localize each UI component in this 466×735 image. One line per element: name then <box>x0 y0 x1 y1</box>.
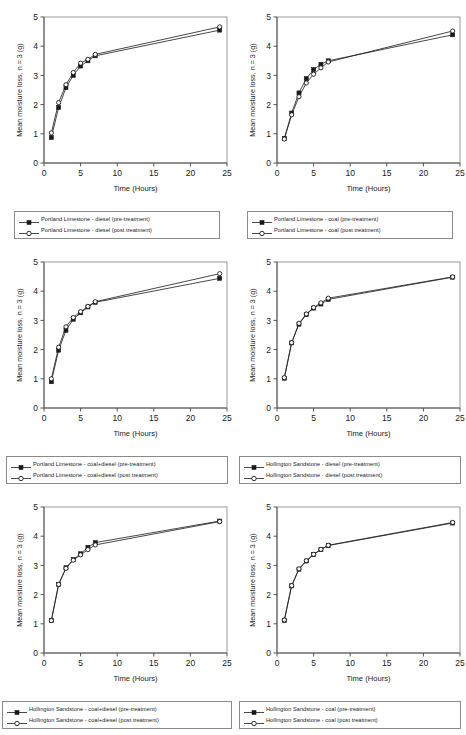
legend-item: Portland Limestone - coal+diesel (post t… <box>10 470 224 481</box>
x-tick-label: 15 <box>149 413 159 423</box>
y-tick-label: 4 <box>33 41 38 51</box>
x-tick-label: 15 <box>149 658 159 668</box>
y-tick-label: 5 <box>266 502 271 512</box>
legend-5: Hollington Sandstone - coal (pre-treatme… <box>239 701 461 729</box>
y-tick-label: 0 <box>33 403 38 413</box>
y-tick-label: 3 <box>266 316 271 326</box>
x-tick-label: 10 <box>345 413 355 423</box>
chart-panel-0: 0123450510152025Time (Hours)Mean moistur… <box>0 0 233 245</box>
marker-filled-square <box>304 77 308 81</box>
x-tick-label: 20 <box>186 658 196 668</box>
marker-open-circle <box>86 304 90 308</box>
marker-filled-square <box>312 68 316 72</box>
x-tick-label: 25 <box>222 658 232 668</box>
chart-panel-3: 0123450510152025Time (Hours)Mean moistur… <box>233 245 466 490</box>
marker-open-circle <box>451 520 455 524</box>
legend-label: Hollington Sandstone - coal (post treatm… <box>265 715 378 726</box>
marker-open-circle <box>319 547 323 551</box>
y-axis-title: Mean moisture loss, n = 3 (g) <box>248 288 257 381</box>
y-tick-label: 2 <box>33 345 38 355</box>
legend-item: Hollington Sandstone - coal (post treatm… <box>243 715 457 726</box>
series-line-0 <box>51 521 219 621</box>
marker-open-circle <box>49 377 53 381</box>
series-line-0 <box>284 35 452 139</box>
x-tick-label: 0 <box>42 658 47 668</box>
marker-open-circle <box>64 83 68 87</box>
x-tick-label: 15 <box>382 413 392 423</box>
y-axis-title: Mean moisture loss, n = 3 (g) <box>248 43 257 136</box>
legend-2: Portland Limestone - coal+diesel (pre-tr… <box>6 456 228 484</box>
x-tick-label: 5 <box>311 658 316 668</box>
marker-open-circle <box>304 81 308 85</box>
x-tick-label: 25 <box>455 658 465 668</box>
y-tick-label: 3 <box>33 561 38 571</box>
y-tick-label: 4 <box>266 41 271 51</box>
x-tick-label: 0 <box>42 168 47 178</box>
marker-open-circle <box>93 300 97 304</box>
x-tick-label: 5 <box>78 168 83 178</box>
x-axis-title: Time (Hours) <box>346 674 390 683</box>
x-tick-label: 15 <box>382 658 392 668</box>
y-tick-label: 0 <box>266 648 271 658</box>
marker-open-circle <box>79 310 83 314</box>
plot-area-4: 0123450510152025Time (Hours)Mean moistur… <box>0 490 233 735</box>
legend-key-filled-square-icon <box>243 704 265 715</box>
y-tick-label: 3 <box>33 316 38 326</box>
legend-label: Portland Limestone - coal (pre-treatment… <box>273 214 378 225</box>
y-tick-label: 2 <box>33 100 38 110</box>
y-tick-label: 1 <box>33 619 38 629</box>
legend-item: Portland Limestone - coal (post treatmen… <box>251 225 449 236</box>
x-axis-title: Time (Hours) <box>346 429 390 438</box>
x-tick-label: 25 <box>455 168 465 178</box>
marker-open-circle <box>304 312 308 316</box>
chart-panel-4: 0123450510152025Time (Hours)Mean moistur… <box>0 490 233 735</box>
marker-open-circle <box>49 131 53 135</box>
y-tick-label: 2 <box>266 590 271 600</box>
series-line-1 <box>51 522 219 621</box>
y-tick-label: 2 <box>33 590 38 600</box>
marker-open-circle <box>312 305 316 309</box>
x-tick-label: 25 <box>222 168 232 178</box>
marker-open-circle <box>218 25 222 29</box>
marker-open-circle <box>319 66 323 70</box>
x-tick-label: 15 <box>149 168 159 178</box>
x-tick-label: 25 <box>455 413 465 423</box>
legend-3: Hollington Sandstone - diesel (pre-treat… <box>239 456 461 484</box>
marker-open-circle <box>326 543 330 547</box>
legend-item: Hollington Sandstone - coal+diesel (post… <box>6 715 228 726</box>
legend-label: Portland Limestone - coal (post treatmen… <box>273 225 381 236</box>
legend-0: Portland Limestone - diesel (pre-treatme… <box>14 211 220 239</box>
x-tick-label: 0 <box>275 168 280 178</box>
legend-key-open-circle-icon <box>18 225 40 236</box>
legend-key-open-circle-icon <box>10 470 32 481</box>
y-tick-label: 3 <box>33 71 38 81</box>
legend-key-filled-square-icon <box>6 704 28 715</box>
marker-open-circle <box>297 95 301 99</box>
x-tick-label: 10 <box>112 413 122 423</box>
y-tick-label: 1 <box>266 129 271 139</box>
y-tick-label: 1 <box>33 129 38 139</box>
legend-1: Portland Limestone - coal (pre-treatment… <box>247 211 453 239</box>
y-tick-label: 5 <box>33 502 38 512</box>
legend-label: Hollington Sandstone - diesel (pre-treat… <box>265 459 380 470</box>
x-tick-label: 10 <box>345 168 355 178</box>
chart-svg-0: 0123450510152025Time (Hours)Mean moistur… <box>0 0 233 245</box>
y-axis-title: Mean moisture loss, n = 3 (g) <box>15 43 24 136</box>
legend-item: Portland Limestone - diesel (post treatm… <box>18 225 216 236</box>
y-tick-label: 0 <box>33 158 38 168</box>
legend-key-filled-square-icon <box>10 459 32 470</box>
x-tick-label: 5 <box>78 658 83 668</box>
marker-open-circle <box>282 137 286 141</box>
marker-open-circle <box>57 100 61 104</box>
legend-key-open-circle-icon <box>243 715 265 726</box>
legend-label: Hollington Sandstone - coal+diesel (pre-… <box>28 704 157 715</box>
x-tick-label: 0 <box>275 413 280 423</box>
marker-open-circle <box>451 275 455 279</box>
legend-4: Hollington Sandstone - coal+diesel (pre-… <box>2 701 232 729</box>
x-tick-label: 10 <box>112 658 122 668</box>
marker-open-circle <box>282 618 286 622</box>
x-tick-label: 5 <box>311 413 316 423</box>
x-tick-label: 20 <box>419 658 429 668</box>
marker-filled-square <box>49 136 53 140</box>
x-tick-label: 0 <box>42 413 47 423</box>
